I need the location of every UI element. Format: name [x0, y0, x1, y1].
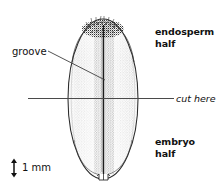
label-endosperm-half: endosperm half	[155, 26, 214, 50]
seed-diagram-figure: endosperm half embryo half cut here groo…	[0, 0, 223, 188]
scale-arrow-head-down	[11, 173, 17, 178]
label-scale-value: 1 mm	[22, 162, 51, 175]
label-groove: groove	[12, 46, 47, 59]
label-embryo-half: embryo half	[155, 136, 195, 160]
hilum-notch	[97, 174, 110, 180]
scale-bar-arrow	[11, 159, 17, 178]
scale-arrow-head-up	[11, 159, 17, 164]
label-cut-here: cut here	[176, 93, 216, 105]
